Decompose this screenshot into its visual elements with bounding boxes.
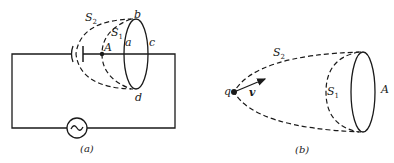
label-a: a <box>125 36 132 49</box>
figure-a: S2 S1 A a b c d (a) <box>12 8 175 154</box>
circuit-wire-right <box>83 54 175 128</box>
label-A: A <box>380 83 389 96</box>
label-S2: S2 <box>273 46 285 61</box>
caption-b: (b) <box>295 144 309 155</box>
label-d: d <box>135 91 142 104</box>
label-S1: S1 <box>327 85 339 100</box>
caption-a: (a) <box>80 143 94 154</box>
circuit-wire-left <box>12 54 71 128</box>
figure-b: S2 S1 A q v (b) <box>224 46 389 155</box>
capacitor-plate-left <box>72 46 74 62</box>
diagram-canvas: S2 S1 A a b c d (a) S2 S1 A q v (b) <box>0 0 394 163</box>
ac-source-icon <box>67 118 87 138</box>
label-S2: S2 <box>85 11 97 26</box>
label-v: v <box>249 86 256 99</box>
label-q: q <box>224 85 231 98</box>
label-c: c <box>149 36 155 49</box>
label-b: b <box>134 8 141 21</box>
loop-A <box>351 52 375 132</box>
label-S1: S1 <box>111 26 123 41</box>
label-A: A <box>103 41 112 54</box>
